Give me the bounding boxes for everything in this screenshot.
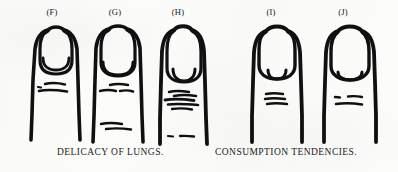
figure-g-label: (G) <box>95 7 135 17</box>
figure-i-drawing <box>244 18 314 146</box>
caption-consumption-tendencies: CONSUMPTION TENDENCIES. <box>215 146 357 158</box>
figure-f-drawing <box>24 18 92 146</box>
figure-h-label: (H) <box>158 7 198 17</box>
figure-j-label: (J) <box>323 7 363 17</box>
fingernail-diagram-plate: (F) (G) <box>0 0 398 172</box>
figure-g-drawing <box>86 18 154 146</box>
figure-j-drawing <box>316 18 388 146</box>
figure-f-label: (F) <box>32 7 72 17</box>
figure-h-drawing <box>150 18 220 148</box>
figure-i-label: (I) <box>251 7 291 17</box>
caption-delicacy-of-lungs: DELICACY OF LUNGS. <box>57 146 164 158</box>
